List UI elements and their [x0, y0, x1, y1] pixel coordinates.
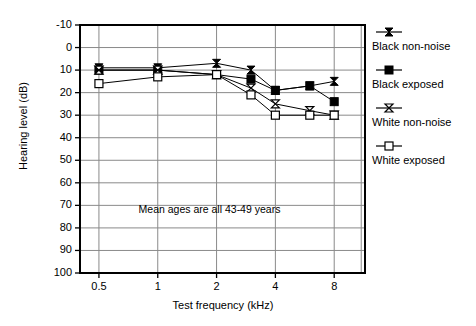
x-tick-label: 4 [260, 281, 290, 292]
legend-label: Black exposed [372, 76, 476, 91]
y-tick-label: 80 [38, 222, 72, 233]
y-tick-label: 100 [38, 267, 72, 278]
y-tick-label: 10 [38, 64, 72, 75]
legend-marker-icon [372, 140, 418, 152]
plot-frame [80, 25, 365, 273]
gridlines [80, 25, 365, 273]
chart-figure: Hearing level (dB) Test frequency (kHz) … [0, 0, 476, 326]
x-tick-label: 0.5 [84, 281, 114, 292]
y-tick-label: 30 [38, 109, 72, 120]
legend-label: Black non-noise [372, 38, 476, 53]
axis-ticks [75, 25, 334, 278]
y-tick-label: 90 [38, 244, 72, 255]
x-tick-label: 2 [202, 281, 232, 292]
legend-marker-icon [372, 102, 418, 114]
chart-annotation: Mean ages are all 43-49 years [139, 203, 281, 215]
y-tick-label: 20 [38, 87, 72, 98]
y-tick-label: 0 [38, 42, 72, 53]
legend-label: White exposed [372, 152, 476, 167]
legend-marker-icon [372, 64, 418, 76]
legend-marker-icon [372, 26, 418, 38]
x-tick-label: 8 [319, 281, 349, 292]
legend-item-white-non-noise[interactable]: White non-noise [372, 102, 476, 129]
y-tick-label: 50 [38, 154, 72, 165]
legend-item-black-non-noise[interactable]: Black non-noise [372, 26, 476, 53]
legend-item-white-exposed[interactable]: White exposed [372, 140, 476, 167]
x-tick-label: 1 [143, 281, 173, 292]
y-tick-label: -10 [38, 19, 72, 30]
y-tick-label: 60 [38, 177, 72, 188]
y-tick-label: 40 [38, 132, 72, 143]
legend-label: White non-noise [372, 114, 476, 129]
y-tick-label: 70 [38, 199, 72, 210]
legend-item-black-exposed[interactable]: Black exposed [372, 64, 476, 91]
